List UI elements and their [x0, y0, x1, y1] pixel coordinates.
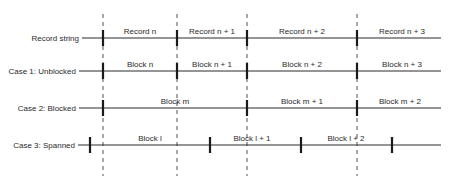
segment-label: Record n — [124, 27, 156, 36]
segment-label: Block n — [127, 60, 153, 69]
segment-label: Block l + 1 — [233, 134, 271, 143]
row-case-3-spanned: Case 3: SpannedBlock lBlock l + 1Block l… — [13, 134, 441, 153]
row-label: Case 2: Blocked — [18, 104, 76, 113]
row-label: Case 3: Spanned — [13, 141, 75, 150]
segment-label: Block m + 2 — [379, 97, 422, 106]
diagram-canvas: Record stringRecord nRecord n + 1Record … — [0, 0, 453, 183]
segment-label: Block n + 1 — [192, 60, 232, 69]
segment-label: Block n + 3 — [382, 60, 422, 69]
row-case-1-unblocked: Case 1: UnblockedBlock nBlock n + 1Block… — [8, 60, 441, 79]
segment-label: Block l + 2 — [327, 134, 365, 143]
segment-label: Record n + 3 — [379, 27, 426, 36]
diagram-rows: Record stringRecord nRecord n + 1Record … — [8, 27, 441, 153]
row-label: Record string — [31, 34, 79, 43]
row-case-2-blocked: Case 2: BlockedBlock mBlock m + 1Block m… — [18, 97, 441, 116]
segment-label: Block m + 1 — [281, 97, 324, 106]
segment-label: Block m — [161, 97, 190, 106]
segment-label: Record n + 1 — [189, 27, 236, 36]
blocking-diagram: Record stringRecord nRecord n + 1Record … — [0, 0, 453, 183]
segment-label: Record n + 2 — [279, 27, 326, 36]
segment-label: Block n + 2 — [282, 60, 322, 69]
row-label: Case 1: Unblocked — [8, 67, 76, 76]
segment-label: Block l — [138, 134, 162, 143]
row-record-string: Record stringRecord nRecord n + 1Record … — [31, 27, 441, 46]
